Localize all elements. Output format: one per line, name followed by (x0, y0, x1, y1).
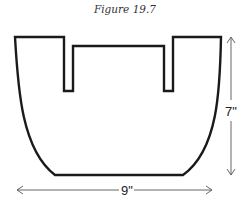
height-label: 7" (225, 104, 237, 119)
width-dimension: 9" (17, 183, 212, 198)
height-dimension: 7" (225, 37, 237, 175)
width-label: 9" (121, 183, 133, 198)
pattern-piece-outline (15, 37, 221, 175)
pattern-diagram: 7" 9" (0, 0, 250, 207)
